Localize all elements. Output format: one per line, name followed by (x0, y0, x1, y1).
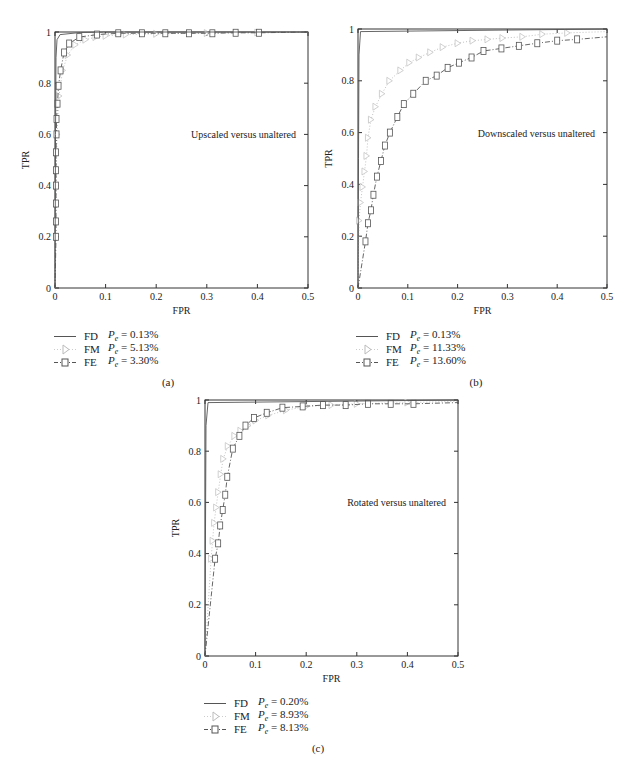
square-marker-icon (343, 402, 348, 409)
plot-frame (205, 400, 458, 656)
series-fm (358, 32, 607, 288)
x-tick-label: 0.5 (302, 291, 315, 302)
square-marker-icon (499, 45, 504, 52)
square-marker-icon (140, 30, 145, 37)
y-tick-label: 0.8 (189, 446, 202, 457)
roc-chart-c: 00.10.20.30.40.500.20.40.60.81FPRTPRRota… (150, 368, 480, 688)
x-axis-label: FPR (173, 305, 191, 316)
x-axis-label: FPR (323, 673, 341, 684)
series-fe (55, 32, 308, 288)
triangle-marker-icon (470, 37, 476, 44)
legend-item-fe: FE Pe = 3.30% (52, 356, 158, 369)
square-marker-icon (368, 207, 373, 214)
square-marker-icon (56, 82, 61, 89)
x-tick-label: 0.3 (351, 659, 364, 670)
triangle-marker-icon (540, 31, 546, 38)
y-tick-label: 0.2 (342, 231, 355, 242)
x-axis-label: FPR (474, 305, 492, 316)
square-marker-icon (365, 220, 370, 227)
x-tick-label: 0.5 (452, 659, 465, 670)
square-marker-icon (54, 116, 59, 123)
square-marker-icon (256, 29, 261, 36)
solid-line-icon (202, 697, 228, 710)
x-tick-label: 0 (203, 659, 208, 670)
triangle-marker-icon (500, 35, 506, 42)
square-marker-icon (52, 356, 78, 369)
triangle-marker-icon (373, 103, 379, 110)
x-tick-label: 0.3 (501, 291, 514, 302)
square-marker-icon (213, 555, 218, 562)
square-marker-icon (481, 48, 486, 55)
triangle-marker-icon (379, 90, 385, 97)
series-fd (205, 400, 458, 656)
y-axis-label: TPR (20, 151, 31, 170)
x-tick-label: 0.2 (300, 659, 313, 670)
square-marker-icon (54, 149, 59, 156)
legend-b: FD Pe = 0.13% FM Pe = 11.33% FE Pe = 13.… (354, 330, 466, 369)
chart-annotation: Downscaled versus unaltered (478, 128, 595, 139)
y-tick-label: 0.4 (189, 548, 202, 559)
triangle-marker-icon (520, 33, 526, 40)
square-marker-icon (535, 40, 540, 47)
x-tick-label: 0.4 (251, 291, 264, 302)
square-marker-icon (445, 64, 450, 71)
triangle-marker-icon (52, 343, 78, 356)
square-marker-icon (401, 101, 406, 108)
square-marker-icon (555, 37, 560, 44)
square-marker-icon (382, 142, 387, 149)
plot-frame (358, 29, 607, 288)
square-marker-icon (54, 131, 59, 138)
triangle-marker-icon (387, 77, 393, 84)
x-tick-label: 0.2 (150, 291, 163, 302)
square-marker-icon (280, 404, 285, 411)
triangle-marker-icon (440, 44, 446, 51)
triangle-marker-icon (362, 168, 368, 175)
triangle-marker-icon (428, 49, 434, 56)
series-fd (358, 29, 607, 288)
x-tick-label: 0.3 (201, 291, 214, 302)
y-tick-label: 0 (349, 283, 354, 294)
y-tick-label: 0.8 (39, 78, 52, 89)
triangle-marker-icon (83, 36, 89, 43)
x-tick-label: 0.4 (401, 659, 414, 670)
square-marker-icon (411, 400, 416, 407)
series-fe (358, 37, 607, 288)
series-fm (55, 32, 308, 288)
square-marker-icon (54, 167, 59, 174)
square-marker-icon (243, 422, 248, 429)
triangle-marker-icon (416, 54, 422, 61)
square-marker-icon (54, 200, 59, 207)
y-tick-label: 0.4 (39, 180, 52, 191)
square-marker-icon (223, 491, 228, 498)
triangle-marker-icon (221, 455, 227, 462)
square-marker-icon (116, 30, 121, 37)
square-marker-icon (423, 77, 428, 84)
x-tick-label: 0 (356, 291, 361, 302)
square-marker-icon (516, 42, 521, 49)
x-tick-label: 0.1 (402, 291, 415, 302)
solid-line-icon (52, 330, 78, 343)
triangle-marker-icon (368, 116, 374, 123)
triangle-marker-icon (214, 504, 220, 511)
triangle-marker-icon (360, 183, 366, 190)
y-tick-label: 0.2 (189, 599, 202, 610)
x-tick-label: 0.2 (451, 291, 464, 302)
square-marker-icon (264, 409, 269, 416)
triangle-marker-icon (565, 29, 571, 36)
square-marker-icon (237, 432, 242, 439)
square-marker-icon (187, 30, 192, 37)
y-tick-label: 1 (196, 395, 201, 406)
square-marker-icon (575, 36, 580, 43)
square-marker-icon (54, 218, 59, 225)
triangle-marker-icon (407, 59, 413, 66)
chart-annotation: Upscaled versus unaltered (191, 129, 296, 140)
legend-a: FD Pe = 0.13% FM Pe = 5.13% FE Pe = 3.30… (52, 330, 158, 369)
series-fd (55, 32, 308, 288)
square-marker-icon (62, 49, 67, 56)
series-fe (205, 403, 458, 656)
x-tick-label: 0.1 (249, 659, 262, 670)
series-fm (205, 401, 458, 656)
square-marker-icon (54, 233, 59, 240)
square-marker-icon (387, 129, 392, 136)
y-tick-label: 0.2 (39, 231, 52, 242)
